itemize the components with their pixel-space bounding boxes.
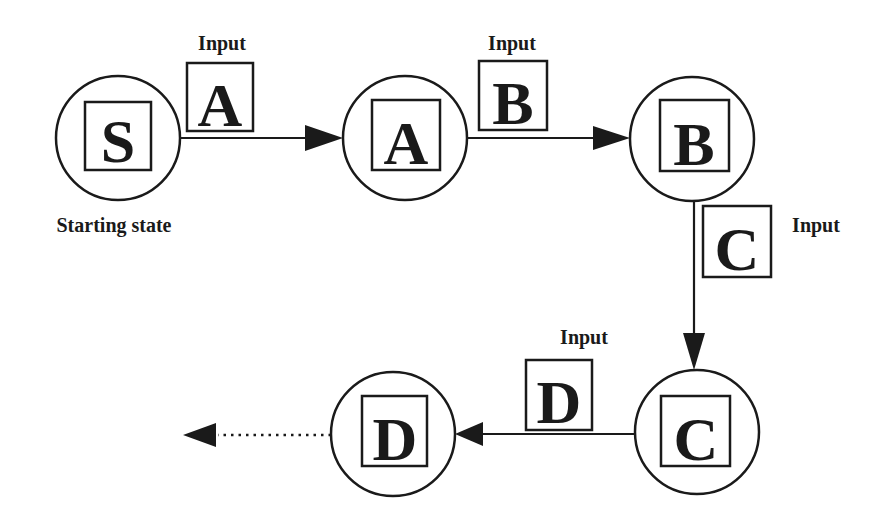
starting-state-caption: Starting state [57,214,172,237]
state-d: D [331,372,455,496]
state-s: S Starting state [56,76,180,237]
state-b: B [630,77,754,201]
transition-d-to-next [183,423,331,447]
transition-s-to-a: Input A [180,32,343,151]
state-d-letter: D [373,405,418,473]
state-a: A [343,76,467,200]
state-c: C [635,370,759,494]
transition-b-to-c: C Input [683,201,840,370]
input-letter-b: B [492,69,533,137]
transition-a-to-b: Input B [467,32,630,150]
input-label-d: Input [560,326,608,349]
input-letter-d: D [537,368,582,436]
state-s-letter: S [101,107,135,175]
state-a-letter: A [384,109,429,177]
input-letter-a: A [198,71,243,139]
arrowhead-icon [593,126,630,150]
state-diagram: S Starting state Input A A Input B B C I… [0,0,878,522]
state-b-letter: B [673,110,714,178]
arrowhead-icon [305,125,343,151]
arrowhead-icon [455,422,483,446]
arrowhead-icon [683,333,705,370]
arrowhead-icon [183,423,216,447]
input-label-c: Input [792,214,840,237]
transition-c-to-d: Input D [455,326,635,446]
input-letter-c: C [715,215,760,283]
input-label-a: Input [198,32,246,55]
input-label-b: Input [488,32,536,55]
state-c-letter: C [674,405,719,473]
